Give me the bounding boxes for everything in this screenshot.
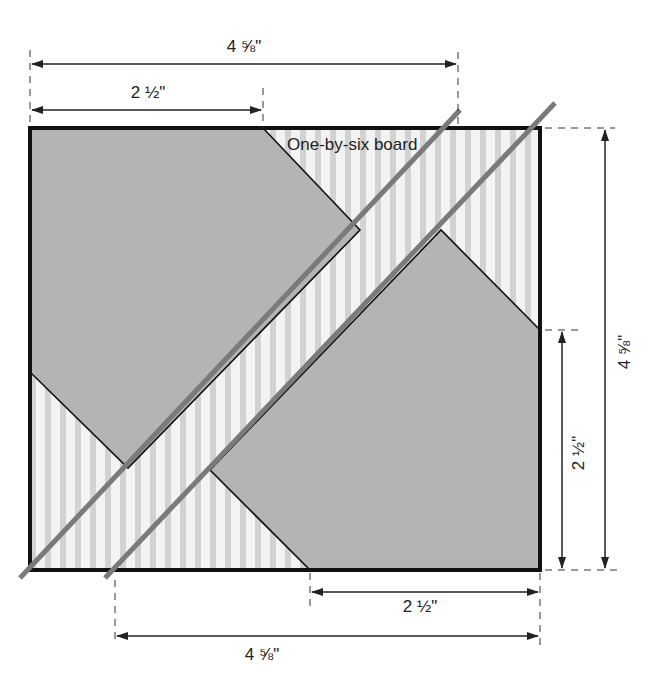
board-label: One-by-six board [287,135,417,154]
dim-top-overall-label: 4 ⅝" [227,37,261,56]
dim-right-overall-label: 4 ⅝" [615,335,634,369]
dim-bottom-overall-label: 4 ⅝" [245,645,279,664]
dim-top-partial-label: 2 ½" [131,83,165,102]
board-cutting-diagram: One-by-six board 4 ⅝" 2 ½" 4 ⅝" 2 ½" 2 ½… [0,0,654,684]
dim-right-partial-label: 2 ½" [569,436,588,470]
dim-bottom-partial-label: 2 ½" [403,597,437,616]
